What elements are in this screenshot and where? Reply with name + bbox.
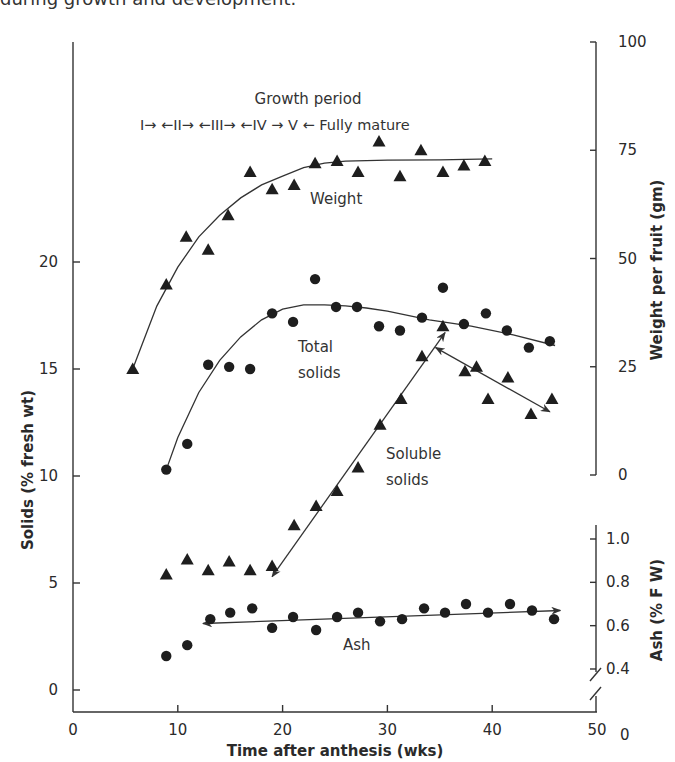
ash-tick-label: 0.6 [606, 617, 630, 635]
total-solids-label-1: Total [297, 338, 333, 356]
ash-tick-label: 0.8 [606, 573, 630, 591]
triangle-marker [524, 407, 537, 419]
ash-tick-label: 0 [620, 726, 630, 744]
triangle-marker [288, 519, 301, 531]
circle-marker [419, 603, 429, 613]
triangle-marker [160, 568, 173, 580]
ash-axis-title: Ash (% F W) [648, 559, 666, 661]
series-soluble-solids [160, 320, 559, 580]
weight-tick-label: 25 [618, 358, 637, 376]
circle-marker [203, 360, 213, 370]
triangle-marker [202, 564, 215, 576]
growth-period-stages: I→ ←II→ ←III→ ←IV → V ← Fully mature [140, 117, 410, 133]
circle-marker [545, 336, 555, 346]
circle-marker [267, 308, 277, 318]
triangle-marker [374, 418, 387, 430]
weight-y-ticks: 0255075100 [590, 33, 647, 484]
circle-marker [483, 607, 493, 617]
x-tick-label: 20 [273, 721, 292, 739]
circle-marker [375, 616, 385, 626]
triangle-marker [310, 499, 323, 511]
circle-marker [247, 603, 257, 613]
circle-marker [440, 607, 450, 617]
circle-marker [311, 625, 321, 635]
x-tick-label: 0 [68, 721, 78, 739]
triangle-marker [395, 392, 408, 404]
growth-period-title: Growth period [255, 90, 362, 108]
left-tick-label: 15 [39, 360, 58, 378]
circle-marker [524, 342, 534, 352]
x-axis-title: Time after anthesis (wks) [227, 742, 444, 760]
left-tick-label: 10 [39, 467, 58, 485]
triangle-marker [126, 362, 139, 374]
soluble-solids-label-1: Soluble [386, 445, 441, 463]
circle-marker [397, 614, 407, 624]
triangle-marker [352, 165, 365, 177]
circle-marker [161, 651, 171, 661]
soluble-solids-label-2: solids [386, 471, 429, 489]
circle-marker [353, 607, 363, 617]
triangle-marker [244, 564, 257, 576]
trend-lines [133, 159, 561, 624]
right-axis-ash [590, 525, 601, 712]
triangle-marker [436, 165, 449, 177]
circle-marker [461, 599, 471, 609]
circle-marker [225, 607, 235, 617]
weight-tick-label: 100 [618, 33, 647, 51]
circle-marker [182, 439, 192, 449]
triangle-marker [202, 243, 215, 255]
circle-marker [438, 282, 448, 292]
circle-marker [395, 325, 405, 335]
weight-label: Weight [310, 190, 362, 208]
triangle-marker [288, 178, 301, 190]
circle-marker [352, 302, 362, 312]
x-tick-label: 50 [587, 721, 606, 739]
triangle-marker [180, 230, 193, 242]
x-tick-label: 40 [483, 721, 502, 739]
left-tick-label: 0 [48, 681, 58, 699]
triangle-marker [470, 360, 483, 372]
x-ticks: 01020304050 [68, 705, 606, 739]
data-points [126, 135, 559, 661]
triangle-marker [309, 157, 322, 169]
circle-marker [459, 319, 469, 329]
series-total-solids [161, 274, 555, 475]
circle-marker [245, 364, 255, 374]
left-axis-title: Solids (% fresh wt) [19, 390, 37, 550]
circle-marker [205, 614, 215, 624]
x-tick-label: 30 [378, 721, 397, 739]
left-y-ticks: 05101520 [39, 253, 80, 699]
triangle-marker [501, 371, 514, 383]
circle-marker [288, 317, 298, 327]
triangle-marker [222, 209, 235, 221]
left-tick-label: 20 [39, 253, 58, 271]
triangle-marker [545, 392, 558, 404]
circle-marker [161, 464, 171, 474]
triangle-marker [223, 555, 236, 567]
circle-marker [267, 623, 277, 633]
triangle-marker [478, 155, 491, 167]
circle-marker [505, 599, 515, 609]
triangle-marker [482, 392, 495, 404]
triangle-marker [393, 170, 406, 182]
ash-tick-label: 0.4 [606, 660, 630, 678]
weight-tick-label: 0 [618, 466, 628, 484]
triangle-marker [266, 559, 279, 571]
circle-marker [331, 302, 341, 312]
triangle-marker [414, 144, 427, 156]
weight-tick-label: 50 [618, 250, 637, 268]
ash-tick-label: 1.0 [606, 530, 630, 548]
circle-marker [224, 362, 234, 372]
total-solids-curve [166, 305, 555, 470]
circle-marker [527, 605, 537, 615]
ash-label: Ash [343, 636, 371, 654]
circle-marker [502, 325, 512, 335]
circle-marker [182, 640, 192, 650]
triangle-marker [244, 165, 257, 177]
weight-tick-label: 75 [618, 141, 637, 159]
triangle-marker [373, 135, 386, 147]
triangle-marker [457, 159, 470, 171]
circle-marker [549, 614, 559, 624]
chart: 01020304050 05101520 0255075100 00.40.60… [0, 0, 675, 762]
triangle-marker [415, 350, 428, 362]
